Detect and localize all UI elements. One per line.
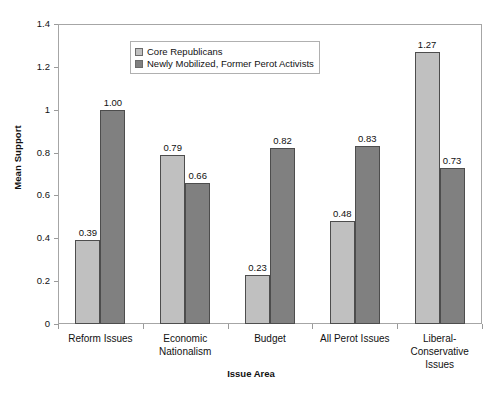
y-axis-tick-label: 0.8: [16, 148, 50, 158]
x-axis-tick-mark: [143, 324, 144, 329]
bar-value-label: 1.00: [94, 97, 131, 108]
y-axis-tick-label: 1: [16, 105, 50, 115]
bar-value-label: 0.82: [264, 135, 301, 146]
bar-0-2[interactable]: [245, 275, 270, 324]
y-axis-tick-label: 1.2: [16, 62, 50, 72]
bar-1-3[interactable]: [355, 146, 380, 324]
bar-1-1[interactable]: [185, 183, 210, 324]
legend-label: Newly Mobilized, Former Perot Activists: [147, 58, 314, 69]
x-axis-category-label-line: Nationalism: [135, 345, 236, 358]
bar-0-0[interactable]: [75, 240, 100, 324]
bar-1-4[interactable]: [440, 168, 465, 324]
x-axis-title: Issue Area: [0, 368, 502, 379]
y-axis-tick-label: 0.6: [16, 190, 50, 200]
x-axis-tick-mark: [397, 324, 398, 329]
bar-value-label: 0.83: [349, 133, 386, 144]
y-axis-tick-label: 0.2: [16, 276, 50, 286]
x-axis-tick-mark: [482, 324, 483, 329]
x-axis-tick-mark: [312, 324, 313, 329]
legend-swatch-icon: [135, 60, 143, 68]
bar-0-4[interactable]: [415, 52, 440, 324]
bar-value-label: 0.73: [434, 155, 471, 166]
y-axis-tick-label: 0.4: [16, 233, 50, 243]
chart-legend: Core RepublicansNewly Mobilized, Former …: [130, 41, 320, 74]
bar-0-3[interactable]: [330, 221, 355, 324]
bar-value-label: 1.27: [409, 39, 446, 50]
bar-1-0[interactable]: [100, 110, 125, 324]
legend-item-1[interactable]: Newly Mobilized, Former Perot Activists: [135, 58, 314, 69]
bar-value-label: 0.79: [154, 142, 191, 153]
legend-label: Core Republicans: [147, 46, 223, 57]
y-axis-tick-label: 1.4: [16, 19, 50, 29]
y-axis-tick-label: 0: [16, 319, 50, 329]
x-axis-tick-mark: [228, 324, 229, 329]
legend-item-0[interactable]: Core Republicans: [135, 46, 314, 57]
x-axis-category-label-line: Conservative: [389, 345, 490, 358]
bar-value-label: 0.66: [179, 170, 216, 181]
bar-1-2[interactable]: [270, 148, 295, 324]
x-axis-category-label: Liberal-ConservativeIssues: [389, 332, 490, 371]
legend-swatch-icon: [135, 48, 143, 56]
x-axis-category-label-line: Liberal-: [389, 332, 490, 345]
x-axis-tick-mark: [58, 324, 59, 329]
bar-chart: Mean Support 00.20.40.60.811.21.4 0.391.…: [0, 0, 502, 393]
